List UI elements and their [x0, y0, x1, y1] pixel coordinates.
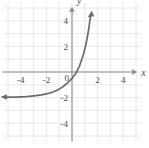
- coordinate-plane-svg: -4-22442-2-40 x y: [0, 0, 149, 148]
- x-tick-label: 4: [121, 75, 126, 85]
- data-series-group: [0, 11, 94, 100]
- exponential-graph-figure: -4-22442-2-40 x y: [0, 0, 149, 148]
- y-tick-label: 4: [64, 16, 69, 26]
- x-tick-label: -4: [17, 75, 25, 85]
- x-tick-label: 2: [95, 75, 100, 85]
- y-tick-label: -4: [61, 119, 69, 129]
- x-axis-label: x: [140, 67, 146, 78]
- curve-left-arrow-icon: [0, 94, 7, 100]
- y-axis-label: y: [76, 0, 82, 6]
- y-tick-label: -2: [61, 93, 69, 103]
- curve-up-arrow-icon: [88, 11, 95, 18]
- axes: [3, 7, 137, 141]
- y-tick-label: 2: [64, 42, 69, 52]
- x-tick-label: -2: [43, 75, 51, 85]
